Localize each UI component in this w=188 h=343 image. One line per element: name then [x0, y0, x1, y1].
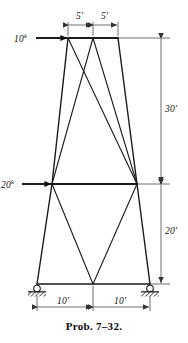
member-upper-diagonal-bd — [52, 38, 93, 184]
load-label-top: 10k — [14, 33, 27, 45]
dimension-label-upper-height: 30' — [165, 105, 177, 115]
load-label-mid: 20k — [1, 179, 14, 191]
dimension-label-bottom-right: 10' — [114, 297, 126, 307]
figure-root: 10k 20k 5' 5' 30' 20' 10' 10' Prob. 7–32… — [0, 0, 188, 343]
member-upper-left-leg — [52, 38, 68, 184]
figure-caption: Prob. 7–32. — [0, 320, 188, 332]
truss-diagram-svg — [0, 0, 188, 343]
member-upper-right-leg — [118, 38, 137, 184]
dimension-label-top-right: 5' — [101, 12, 108, 22]
member-lower-right-leg — [137, 184, 150, 284]
member-lower-diagonal-dg — [52, 184, 93, 284]
dimension-label-bottom-left: 10' — [57, 297, 69, 307]
support-left — [28, 285, 46, 296]
support-right — [141, 285, 159, 296]
dimension-label-lower-height: 20' — [165, 227, 177, 237]
member-lower-diagonal-eg — [93, 184, 137, 284]
member-lower-left-leg — [37, 184, 52, 284]
member-upper-diagonal-ae — [68, 38, 137, 184]
top-dimension-group — [68, 22, 118, 36]
bottom-dimension-group — [37, 286, 150, 311]
member-upper-diagonal-be — [93, 38, 137, 184]
truss-members — [37, 38, 150, 284]
dimension-label-top-left: 5' — [76, 12, 83, 22]
